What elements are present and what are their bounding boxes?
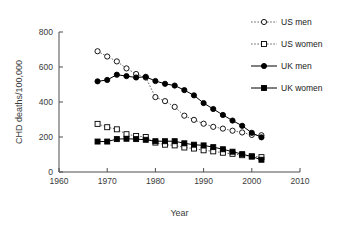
- data-point: [114, 72, 119, 77]
- series-line: [98, 124, 262, 157]
- data-point: [182, 113, 187, 118]
- y-axis-title: CHD deaths/100,000: [14, 60, 24, 144]
- x-tick-label: 1980: [146, 176, 165, 186]
- data-point: [172, 104, 177, 109]
- data-point: [95, 139, 100, 144]
- data-point: [124, 136, 129, 141]
- data-point: [191, 142, 196, 147]
- legend-item-us-men[interactable]: US men: [251, 17, 312, 27]
- data-point: [134, 137, 139, 142]
- chart-legend: US menUS womenUK menUK women: [251, 17, 323, 93]
- y-tick-label: 800: [39, 27, 53, 37]
- legend-marker-icon: [262, 42, 267, 47]
- x-tick-label: 2000: [242, 176, 261, 186]
- data-point: [162, 99, 167, 104]
- data-point: [114, 137, 119, 142]
- series-uk-men: [95, 72, 264, 140]
- y-tick-label: 600: [39, 62, 53, 72]
- x-tick-label: 2010: [291, 176, 310, 186]
- data-point: [105, 77, 110, 82]
- data-point: [105, 125, 110, 130]
- data-point: [95, 121, 100, 126]
- legend-item-uk-men[interactable]: UK men: [251, 61, 312, 71]
- legend-marker-icon: [261, 19, 266, 24]
- x-tick-label: 1990: [194, 176, 213, 186]
- legend-marker-icon: [261, 63, 266, 68]
- data-point: [114, 127, 119, 132]
- data-point: [211, 106, 216, 111]
- data-point: [105, 54, 110, 59]
- series-line: [98, 75, 262, 138]
- data-point: [220, 147, 225, 152]
- data-point: [220, 112, 225, 117]
- data-point: [182, 88, 187, 93]
- data-point: [124, 66, 129, 71]
- data-point: [163, 139, 168, 144]
- data-point: [249, 154, 254, 159]
- data-point: [191, 117, 196, 122]
- legend-label: UK men: [281, 61, 312, 71]
- legend-item-uk-women[interactable]: UK women: [251, 83, 323, 93]
- legend-label: US women: [281, 39, 323, 49]
- x-axis-title: Year: [170, 208, 188, 218]
- y-tick-label: 400: [39, 97, 53, 107]
- data-point: [220, 126, 225, 131]
- data-point: [240, 152, 245, 157]
- data-point: [259, 135, 264, 140]
- data-point: [143, 137, 148, 142]
- x-tick-label: 1960: [50, 176, 69, 186]
- data-point: [124, 74, 129, 79]
- data-point: [211, 145, 216, 150]
- data-point: [230, 128, 235, 133]
- data-point: [230, 149, 235, 154]
- data-point: [230, 118, 235, 123]
- data-point: [105, 139, 110, 144]
- y-tick-label: 200: [39, 132, 53, 142]
- data-point: [172, 139, 177, 144]
- data-point: [249, 130, 254, 135]
- data-point: [259, 157, 264, 162]
- series-line: [98, 139, 262, 160]
- x-tick-label: 1970: [98, 176, 117, 186]
- chd-mortality-line-chart: 1960197019801990200020100200400600800 US…: [0, 0, 354, 237]
- legend-marker-icon: [262, 86, 267, 91]
- data-point: [201, 121, 206, 126]
- data-point: [153, 78, 158, 83]
- data-point: [191, 93, 196, 98]
- legend-item-us-women[interactable]: US women: [251, 39, 323, 49]
- data-series: [95, 49, 264, 163]
- data-point: [95, 49, 100, 54]
- data-point: [172, 83, 177, 88]
- data-point: [153, 95, 158, 100]
- data-point: [182, 141, 187, 146]
- data-point: [201, 143, 206, 148]
- data-point: [162, 81, 167, 86]
- data-point: [134, 75, 139, 80]
- chart-page: 1960197019801990200020100200400600800 US…: [0, 0, 354, 237]
- data-point: [114, 59, 119, 64]
- y-tick-label: 0: [48, 167, 53, 177]
- series-uk-women: [95, 136, 264, 162]
- series-us-women: [95, 121, 264, 159]
- legend-label: US men: [281, 17, 312, 27]
- data-point: [153, 139, 158, 144]
- legend-label: UK women: [281, 83, 323, 93]
- data-point: [95, 79, 100, 84]
- data-point: [211, 124, 216, 129]
- data-point: [143, 74, 148, 79]
- data-point: [240, 123, 245, 128]
- data-point: [201, 100, 206, 105]
- data-point: [240, 130, 245, 135]
- data-point: [201, 148, 206, 153]
